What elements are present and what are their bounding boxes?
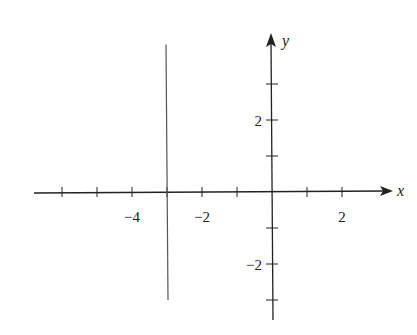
x-tick-label: −4: [124, 209, 140, 225]
y-axis-label: y: [280, 32, 290, 50]
vertical-line-x-neg3: [166, 44, 168, 300]
x-tick-label: −2: [194, 209, 210, 225]
x-tick-label: 2: [338, 209, 346, 225]
x-axis: [34, 191, 386, 193]
y-tick-label: 2: [255, 113, 263, 129]
y-tick-label: −2: [246, 257, 262, 273]
y-axis: [271, 40, 273, 320]
coordinate-plane: xy−4−222−2: [0, 0, 417, 335]
x-axis-label: x: [396, 182, 404, 199]
